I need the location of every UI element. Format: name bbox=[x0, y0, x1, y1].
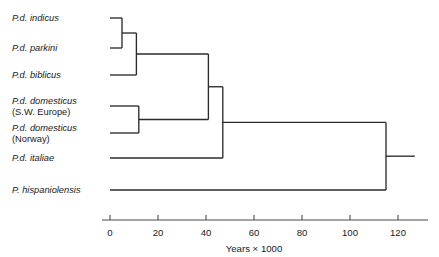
taxon-species-name: P.d. domesticus bbox=[12, 96, 77, 106]
taxon-species-name: P.d. parkini bbox=[12, 43, 58, 53]
taxon-label-domesticus-nor: P.d. domesticus bbox=[12, 123, 77, 133]
axis-tick-label-20: 20 bbox=[153, 227, 164, 238]
axis-tick-label-100: 100 bbox=[342, 227, 358, 238]
taxon-sublabel-domesticus-swe: (S.W. Europe) bbox=[12, 107, 70, 117]
taxon-label-italiae: P.d. italiae bbox=[12, 153, 54, 163]
taxon-label-hispaniolensis: P. hispaniolensis bbox=[12, 185, 81, 195]
axis-tick-label-0: 0 bbox=[107, 227, 112, 238]
axis-title: Years × 1000 bbox=[226, 243, 282, 254]
taxon-label-indicus: P.d. indicus bbox=[12, 13, 59, 23]
taxon-species-name: P. hispaniolensis bbox=[12, 185, 81, 195]
taxon-species-name: P.d. biblicus bbox=[12, 70, 61, 80]
axis-tick-label-40: 40 bbox=[201, 227, 212, 238]
taxon-species-name: P.d. indicus bbox=[12, 13, 59, 23]
axis-tick-label-120: 120 bbox=[390, 227, 406, 238]
taxon-sublabel-domesticus-nor: (Norway) bbox=[12, 134, 50, 144]
taxon-label-parkini: P.d. parkini bbox=[12, 43, 58, 53]
taxon-species-name: P.d. italiae bbox=[12, 153, 54, 163]
taxon-label-domesticus-swe: P.d. domesticus bbox=[12, 96, 77, 106]
taxon-species-name: P.d. domesticus bbox=[12, 123, 77, 133]
phylogenetic-tree-figure: P.d. indicusP.d. parkiniP.d. biblicusP.d… bbox=[0, 0, 439, 257]
taxon-label-biblicus: P.d. biblicus bbox=[12, 70, 61, 80]
axis-tick-label-80: 80 bbox=[297, 227, 308, 238]
axis-tick-label-60: 60 bbox=[249, 227, 260, 238]
